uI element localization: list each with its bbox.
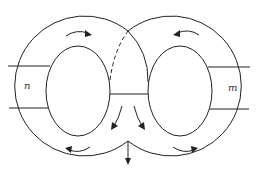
- right-circle-inner-arc: [128, 31, 148, 82]
- left-inner-hole: [46, 46, 110, 136]
- circulation-arrows: [65, 30, 199, 165]
- outflow-arrowhead: [125, 158, 131, 165]
- arrowhead-center-right: [138, 122, 145, 130]
- arrowhead-center-left: [111, 122, 118, 130]
- arrow-bottom-left: [69, 147, 90, 151]
- arrow-center-right: [134, 106, 142, 126]
- arrow-top-right: [177, 31, 199, 35]
- label-n: n: [24, 81, 30, 91]
- right-inner-hole: [148, 46, 212, 136]
- arrowhead-top-left: [85, 30, 92, 37]
- arrow-bottom-right: [173, 147, 194, 151]
- handle-diagram: [0, 0, 256, 173]
- arrow-center-left: [114, 106, 122, 126]
- right-outer-boundary: [128, 16, 241, 156]
- dashed-hidden-arc: [110, 31, 128, 80]
- arrow-top-left: [66, 32, 88, 36]
- label-m: m: [228, 83, 237, 93]
- arrowhead-bottom-left: [65, 146, 72, 153]
- arrowhead-top-right: [173, 30, 180, 37]
